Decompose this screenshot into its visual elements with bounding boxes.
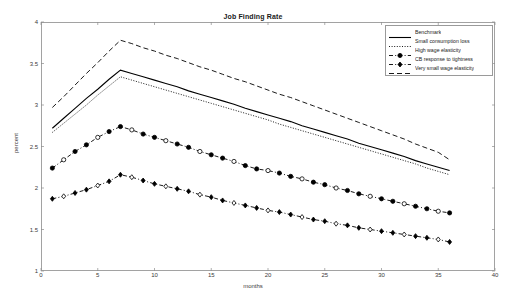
series-marker [402,232,406,237]
series-marker [130,128,134,132]
legend-line-sample [388,28,412,37]
series-marker [289,174,293,178]
series-marker [175,142,179,146]
series-marker [346,223,350,228]
series-marker [73,149,77,153]
series-marker [73,190,77,195]
series-marker [198,149,202,153]
series-marker [300,215,304,220]
series-marker [311,217,315,222]
series-marker [425,235,429,240]
series-line [52,77,449,175]
legend-label: Small consumption loss [415,37,470,46]
series-marker [84,143,88,147]
series-marker [221,198,225,203]
series-marker [118,124,122,128]
series-marker [436,237,440,242]
series-marker [448,239,452,244]
legend-label: Benchmark [415,28,441,37]
legend-line-sample [388,55,412,64]
series-marker [413,204,417,208]
series-marker [436,209,440,213]
series-marker [266,208,270,213]
series-marker [152,135,156,139]
series-marker [379,197,383,201]
figure-canvas: Job Finding Rate percent months 11.522.5… [0,0,506,298]
legend-label: Very small wage elasticity [415,64,474,73]
series-marker [243,203,247,208]
series-marker [311,180,315,184]
series-marker [323,183,327,187]
series-marker [62,194,66,199]
series-marker [448,211,452,215]
legend-item[interactable]: High wage elasticity [388,46,490,55]
legend-label: High wage elasticity [415,46,461,55]
series-marker [425,207,429,211]
legend-item[interactable]: Benchmark [388,28,490,37]
series-marker [334,186,338,190]
series-marker [96,135,100,139]
series-marker [84,187,88,192]
series-marker [209,153,213,157]
series-marker [289,212,293,217]
series-marker [198,192,202,197]
series-marker [255,167,259,171]
series-marker [266,168,270,172]
series-marker [232,200,236,205]
series-marker [391,230,395,235]
series-marker [141,178,145,183]
series-marker [368,194,372,198]
series-marker [243,163,247,167]
series-marker [96,183,100,188]
series-line [52,70,449,170]
series-line [52,175,449,242]
series-marker [334,221,338,226]
series-marker [255,205,259,210]
series-marker [391,199,395,203]
series-marker [62,158,66,162]
series-marker [187,189,191,194]
series-marker [357,225,361,230]
series-marker [164,139,168,143]
series-marker [107,129,111,133]
series-marker [300,177,304,181]
series-marker [277,210,281,215]
series-marker [380,229,384,234]
series-marker [186,145,190,149]
series-marker [323,219,327,224]
legend-label: CB response to tightness [415,55,473,64]
legend-item[interactable]: CB response to tightness [388,55,490,64]
legend-line-sample [388,64,412,73]
series-marker [107,179,111,184]
legend-line-sample [388,46,412,55]
series-marker [345,188,349,192]
legend-item[interactable]: Very small wage elasticity [388,64,490,73]
series-marker [414,234,418,239]
series-marker [130,175,134,180]
legend-item[interactable]: Small consumption loss [388,37,490,46]
series-marker [357,192,361,196]
series-marker [402,202,406,206]
series-marker [153,181,157,186]
chart-legend: BenchmarkSmall consumption lossHigh wage… [385,25,493,76]
series-marker [368,227,372,232]
series-marker [50,196,54,201]
series-marker [175,186,179,191]
series-marker [119,172,123,177]
series-marker [141,132,145,136]
series-marker [164,184,168,189]
series-marker [221,156,225,160]
series-marker [50,166,54,170]
series-marker [232,159,236,163]
series-marker [277,171,281,175]
series-marker [209,195,213,200]
legend-line-sample [388,37,412,46]
series-line [52,127,449,213]
